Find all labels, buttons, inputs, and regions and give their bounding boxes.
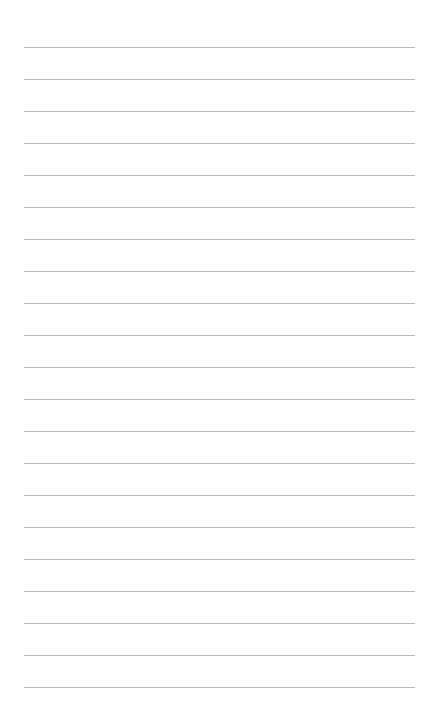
ruled-line	[24, 79, 415, 80]
ruled-line	[24, 431, 415, 432]
ruled-line	[24, 47, 415, 48]
lined-paper-page	[0, 0, 430, 728]
ruled-line	[24, 495, 415, 496]
ruled-line	[24, 527, 415, 528]
ruled-line	[24, 271, 415, 272]
ruled-line	[24, 623, 415, 624]
ruled-line	[24, 239, 415, 240]
ruled-line	[24, 207, 415, 208]
ruled-line	[24, 303, 415, 304]
ruled-line	[24, 143, 415, 144]
ruled-line	[24, 335, 415, 336]
ruled-line	[24, 687, 415, 688]
ruled-line	[24, 559, 415, 560]
ruled-line	[24, 175, 415, 176]
ruled-line	[24, 591, 415, 592]
ruled-line	[24, 111, 415, 112]
ruled-line	[24, 399, 415, 400]
ruled-line	[24, 655, 415, 656]
ruled-line	[24, 367, 415, 368]
ruled-line	[24, 463, 415, 464]
